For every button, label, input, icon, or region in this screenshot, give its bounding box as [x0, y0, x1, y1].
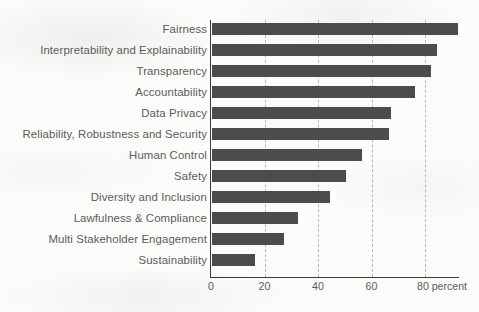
- bar-row: Reliability, Robustness and Security: [0, 124, 479, 145]
- bar-row: Sustainability: [0, 250, 479, 271]
- bar: [212, 191, 330, 203]
- x-tick-label-40: 40: [312, 280, 324, 292]
- bar-row: Interpretability and Explainability: [0, 40, 479, 61]
- bar: [212, 23, 458, 35]
- bar-category-label: Data Privacy: [141, 103, 207, 124]
- bar-category-label: Diversity and Inclusion: [91, 187, 207, 208]
- bar-category-label: Lawfulness & Compliance: [74, 208, 207, 229]
- bar: [212, 65, 431, 77]
- bar-category-label: Fairness: [163, 19, 207, 40]
- bar-category-label: Accountability: [135, 82, 207, 103]
- bar-row: Lawfulness & Compliance: [0, 208, 479, 229]
- x-tick-label-20: 20: [259, 280, 271, 292]
- bar-category-label: Human Control: [129, 145, 207, 166]
- bar-category-label: Multi Stakeholder Engagement: [48, 229, 207, 250]
- horizontal-bar-chart: FairnessInterpretability and Explainabil…: [0, 0, 479, 312]
- bar: [212, 212, 298, 224]
- bar-row: Multi Stakeholder Engagement: [0, 229, 479, 250]
- bar-category-label: Interpretability and Explainability: [40, 40, 207, 61]
- bar-category-label: Safety: [174, 166, 207, 187]
- bar-category-label: Sustainability: [138, 250, 207, 271]
- x-tick-label-60: 60: [366, 280, 378, 292]
- bar-row: Fairness: [0, 19, 479, 40]
- x-tick-label-80: 80 percent: [417, 280, 467, 292]
- bar: [212, 233, 284, 245]
- bar: [212, 128, 389, 140]
- bar-row: Transparency: [0, 61, 479, 82]
- bar-row: Diversity and Inclusion: [0, 187, 479, 208]
- bar-category-label: Transparency: [137, 61, 207, 82]
- bar: [212, 44, 437, 56]
- y-axis-line: [210, 20, 211, 278]
- bar: [212, 107, 391, 119]
- bar: [212, 254, 255, 266]
- bar-row: Accountability: [0, 82, 479, 103]
- bar: [212, 86, 415, 98]
- bar: [212, 170, 346, 182]
- bar-row: Data Privacy: [0, 103, 479, 124]
- bar-row: Safety: [0, 166, 479, 187]
- bar: [212, 149, 362, 161]
- x-tick-label-0: 0: [208, 280, 214, 292]
- bar-row: Human Control: [0, 145, 479, 166]
- x-axis-line: [210, 277, 459, 278]
- bar-category-label: Reliability, Robustness and Security: [23, 124, 207, 145]
